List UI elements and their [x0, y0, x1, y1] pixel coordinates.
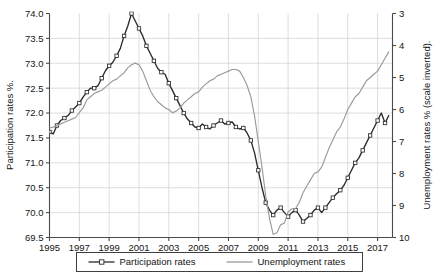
series-marker: [145, 44, 148, 47]
y-axis-left-tick-label: 73.0: [25, 58, 44, 69]
series-marker: [204, 125, 207, 128]
y-axis-right-tick-label: 9: [399, 200, 404, 211]
series-marker: [339, 189, 342, 192]
x-axis-tick-label: 2017: [367, 242, 388, 253]
series-marker: [272, 213, 275, 216]
x-axis: 1995199719992001200320052007200920112013…: [39, 238, 393, 254]
series-marker: [376, 119, 379, 122]
series-marker: [331, 196, 334, 199]
series-marker: [85, 90, 88, 93]
legend-swatch-marker: [100, 260, 104, 264]
series-marker: [48, 130, 51, 133]
series-marker: [346, 176, 349, 179]
x-axis-tick-label: 2013: [307, 242, 328, 253]
series-marker: [137, 27, 140, 30]
y-axis-left-tick-label: 70.5: [25, 182, 44, 193]
y-axis-right-tick-label: 3: [399, 8, 404, 19]
x-axis-tick-label: 2011: [278, 242, 298, 253]
y-axis-left-tick-label: 71.5: [25, 132, 44, 143]
y-axis-right-tick-label: 4: [399, 40, 404, 51]
line-chart: 69.570.070.571.071.572.072.573.073.574.0…: [0, 0, 439, 275]
y-axis-right-tick-label: 7: [399, 136, 404, 147]
series-marker: [93, 86, 96, 89]
series-marker: [182, 111, 185, 114]
y-axis-left-tick-label: 72.0: [25, 107, 44, 118]
legend-label-1: Participation rates: [120, 256, 196, 267]
series-marker: [212, 124, 215, 127]
series-marker: [324, 206, 327, 209]
series-marker: [152, 59, 155, 62]
x-axis-tick-label: 2015: [337, 242, 358, 253]
y-axis-right-tick-label: 6: [399, 104, 404, 115]
y-axis-left-tick-label: 70.0: [25, 207, 44, 218]
series-marker: [279, 206, 282, 209]
x-axis-tick-label: 2003: [158, 242, 179, 253]
chart-container: 69.570.070.571.071.572.072.573.073.574.0…: [0, 0, 439, 275]
y-axis-left-tick-label: 74.0: [25, 8, 44, 19]
y-axis-left-tick-label: 71.0: [25, 157, 44, 168]
y-axis-left-title: Participation rates %.: [4, 80, 15, 170]
series-marker: [63, 116, 66, 119]
x-axis-tick-label: 1995: [39, 242, 60, 253]
series-marker: [257, 169, 260, 172]
series-plot-area: [48, 12, 389, 235]
y-axis-right-tick-label: 8: [399, 168, 404, 179]
y-axis-right-tick-label: 5: [399, 72, 404, 83]
series-marker: [197, 126, 200, 129]
x-axis-tick-label: 1997: [69, 242, 90, 253]
y-axis-right: 345678910: [393, 8, 410, 243]
series-marker: [354, 161, 357, 164]
series-marker: [309, 213, 312, 216]
series-marker: [175, 96, 178, 99]
series-marker: [227, 121, 230, 124]
x-axis-tick-label: 2005: [188, 242, 209, 253]
series-line-1: [50, 14, 389, 222]
series-marker: [100, 77, 103, 80]
series-marker: [242, 126, 245, 129]
series-marker: [189, 121, 192, 124]
series-marker: [301, 220, 304, 223]
series-marker: [219, 119, 222, 122]
series-marker: [115, 54, 118, 57]
series-marker: [368, 134, 371, 137]
legend: Participation ratesUnemployment rates: [77, 253, 363, 272]
y-axis-right-title: Unemployment rates % (scale inverted).: [421, 41, 432, 210]
y-axis-left: 69.570.070.571.071.572.072.573.073.574.0: [25, 8, 50, 243]
series-marker: [78, 101, 81, 104]
series-marker: [361, 149, 364, 152]
x-axis-tick-label: 2007: [218, 242, 239, 253]
x-axis-tick-label: 2001: [128, 242, 149, 253]
x-axis-tick-label: 1999: [99, 242, 120, 253]
series-marker: [234, 125, 237, 128]
series-marker: [122, 34, 125, 37]
series-marker: [249, 139, 252, 142]
series-marker: [107, 64, 110, 67]
series-marker: [130, 12, 133, 15]
legend-label-2: Unemployment rates: [258, 256, 346, 267]
x-axis-tick-label: 2009: [248, 242, 269, 253]
y-axis-left-tick-label: 73.5: [25, 33, 44, 44]
series-marker: [160, 71, 163, 74]
y-axis-right-tick-label: 10: [399, 232, 410, 243]
series-marker: [70, 109, 73, 112]
series-marker: [316, 206, 319, 209]
series-marker: [167, 81, 170, 84]
series-marker: [383, 121, 386, 124]
y-axis-left-tick-label: 72.5: [25, 83, 44, 94]
